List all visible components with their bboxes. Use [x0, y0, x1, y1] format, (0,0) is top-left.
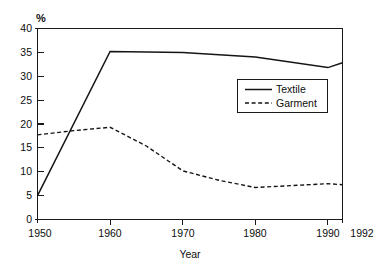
x-tick-label-1990: 1990	[316, 227, 340, 239]
x-tick-label-1970: 1970	[171, 227, 195, 239]
x-axis-title: Year	[179, 248, 201, 260]
y-tick-label-30: 30	[20, 70, 32, 82]
y-axis-tick-labels: 0 5 10 15 20 25 30 35 40	[20, 22, 32, 225]
x-axis-ticks	[38, 217, 343, 226]
y-tick-label-40: 40	[20, 22, 32, 34]
x-tick-label-1960: 1960	[98, 227, 122, 239]
x-tick-label-1950: 1950	[28, 227, 52, 239]
series-line-textile	[38, 51, 343, 195]
legend-label-textile: Textile	[276, 83, 306, 95]
legend-label-garment: Garment	[276, 97, 317, 109]
y-tick-label-0: 0	[26, 213, 32, 225]
x-tick-label-1992: 1992	[350, 227, 374, 239]
y-tick-label-5: 5	[26, 189, 32, 201]
y-axis-ticks	[35, 29, 44, 220]
y-tick-label-20: 20	[20, 118, 32, 130]
y-tick-label-10: 10	[20, 165, 32, 177]
y-axis-unit-label: %	[36, 12, 46, 24]
y-tick-label-15: 15	[20, 141, 32, 153]
x-axis-tick-labels: 1950 1960 1970 1980 1990 1992	[28, 227, 374, 239]
y-tick-label-35: 35	[20, 46, 32, 58]
series-line-garment	[38, 127, 343, 187]
y-tick-label-25: 25	[20, 94, 32, 106]
chart-legend[interactable]: Textile Garment	[238, 80, 328, 113]
x-tick-label-1980: 1980	[243, 227, 267, 239]
chart-figure: % 0 5 10 15 20 25 30 35 40	[0, 0, 377, 271]
line-chart: % 0 5 10 15 20 25 30 35 40	[0, 0, 377, 271]
